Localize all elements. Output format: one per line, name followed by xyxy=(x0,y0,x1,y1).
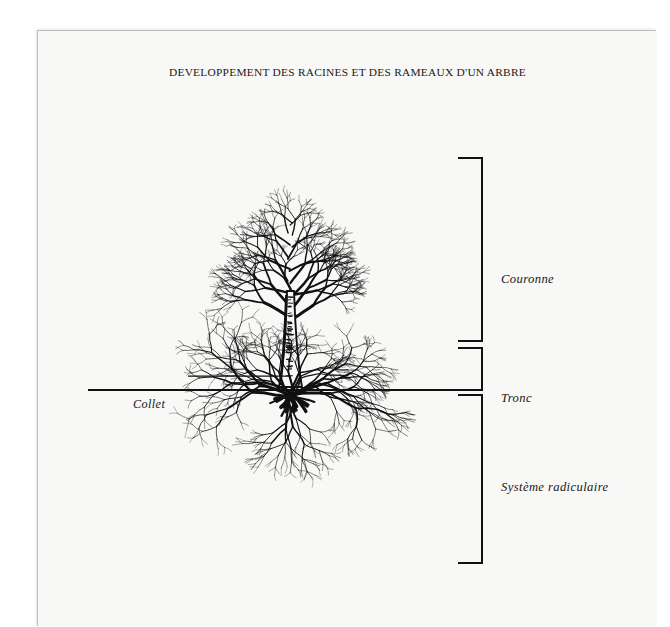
screenshot-root: DEVELOPPEMENT DES RACINES ET DES RAMEAUX… xyxy=(0,0,670,627)
tree-diagram xyxy=(38,31,657,627)
bracket-label-tronc: Tronc xyxy=(501,391,532,406)
bracket-2 xyxy=(458,395,482,563)
callout-label-collet: Collet xyxy=(133,397,165,412)
bracket-group xyxy=(458,158,482,563)
bracket-1 xyxy=(458,348,482,390)
bracket-label-couronne: Couronne xyxy=(501,272,554,287)
bracket-0 xyxy=(458,158,482,341)
scanned-page: DEVELOPPEMENT DES RACINES ET DES RAMEAUX… xyxy=(38,31,657,627)
bracket-label-systeme-radiculaire: Système radiculaire xyxy=(501,480,609,495)
page-content: DEVELOPPEMENT DES RACINES ET DES RAMEAUX… xyxy=(38,31,657,627)
